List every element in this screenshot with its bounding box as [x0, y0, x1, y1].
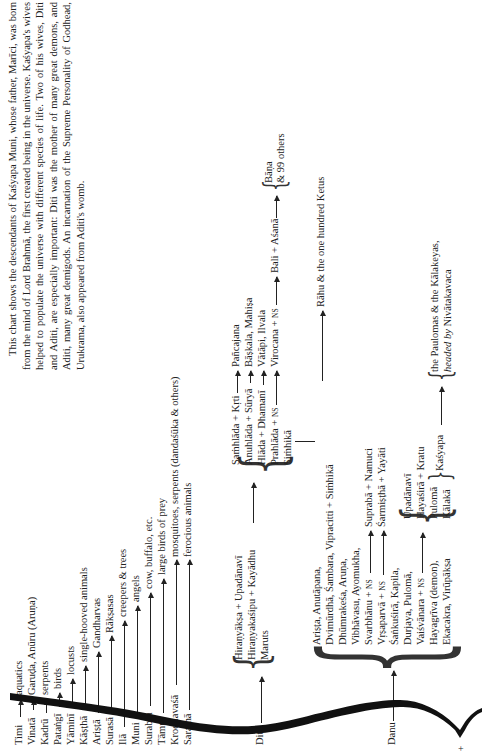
svg-text:+: + — [458, 743, 464, 754]
curly-brace-decoration-icon: + — [0, 0, 482, 755]
